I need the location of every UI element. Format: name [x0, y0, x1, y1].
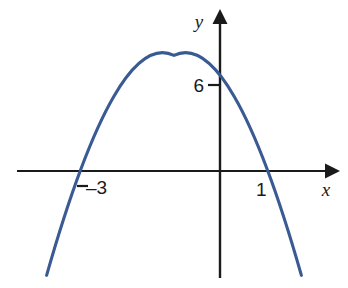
x-axis-label: x [321, 179, 331, 200]
parabola-graph-figure: y x 6 –3 1 [0, 0, 348, 288]
figure-background [0, 0, 348, 288]
y-intercept-label: 6 [193, 75, 204, 96]
x-intercept-left-label: –3 [86, 177, 107, 198]
y-axis-label: y [193, 11, 204, 32]
x-intercept-right-label: 1 [256, 179, 267, 200]
